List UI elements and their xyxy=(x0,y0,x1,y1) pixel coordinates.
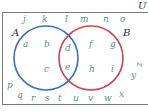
element-q: q xyxy=(17,90,23,100)
element-r: r xyxy=(31,93,36,103)
set-b-circle xyxy=(59,26,123,90)
universal-set-label: U xyxy=(138,0,147,11)
element-g: g xyxy=(110,39,116,49)
element-j: j xyxy=(21,14,26,24)
element-h: h xyxy=(89,64,95,74)
venn-diagram: U A B a b c d e f g h i j k l m n o p q … xyxy=(0,0,148,111)
element-m: m xyxy=(80,14,89,24)
element-v: v xyxy=(88,93,93,103)
element-c: c xyxy=(44,64,49,74)
element-i: i xyxy=(111,64,114,74)
element-u: u xyxy=(73,93,79,103)
element-z: z xyxy=(135,61,145,67)
element-p: p xyxy=(7,80,13,90)
element-e: e xyxy=(65,62,70,72)
element-k: k xyxy=(42,14,47,24)
element-a: a xyxy=(23,39,28,49)
set-a-label: A xyxy=(11,27,19,38)
set-b-label: B xyxy=(122,27,130,38)
element-s: s xyxy=(45,93,50,103)
element-x: x xyxy=(119,89,124,99)
element-l: l xyxy=(65,14,68,24)
element-d: d xyxy=(65,43,71,53)
element-b: b xyxy=(44,39,50,49)
element-o: o xyxy=(120,14,126,24)
element-y: y xyxy=(130,70,137,80)
element-f: f xyxy=(88,39,94,49)
element-n: n xyxy=(103,14,109,24)
element-t: t xyxy=(58,93,62,103)
element-w: w xyxy=(104,93,112,103)
